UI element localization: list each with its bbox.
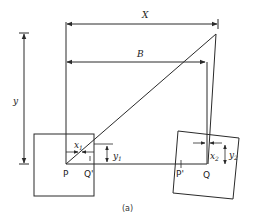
y-label: y — [12, 96, 19, 106]
B-label: B — [136, 49, 144, 59]
left-image-frame — [34, 134, 94, 196]
offset-x1: x1 — [66, 140, 94, 152]
Q-label: Q — [203, 170, 210, 180]
Q-prime-label: Q' — [84, 169, 94, 179]
y1-label: y1 — [112, 151, 122, 162]
x2-label: x2 — [210, 151, 219, 162]
figure-caption: (a) — [122, 204, 133, 213]
x1-label: x1 — [74, 140, 83, 151]
P-label: P — [63, 169, 69, 179]
y2-label: y2 — [228, 150, 238, 161]
offset-y1: y1 — [94, 144, 122, 162]
stereo-geometry-diagram: y X B x1 y1 P Q' P' Q — [0, 0, 254, 224]
X-label: X — [141, 10, 149, 20]
right-image-frame-rotated — [173, 131, 239, 199]
P-prime-label: P' — [176, 169, 184, 179]
dimension-arrow-B: B — [67, 49, 207, 164]
dimension-arrow-y: y — [12, 33, 29, 164]
offset-y2: y2 — [225, 145, 238, 164]
dimension-arrow-X: X — [67, 10, 218, 29]
ray-apex-to-Q — [208, 34, 216, 164]
